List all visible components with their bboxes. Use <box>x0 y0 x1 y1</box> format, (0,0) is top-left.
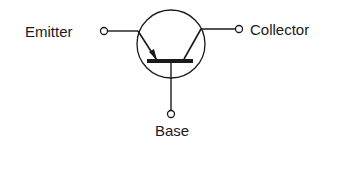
collector-label: Collector <box>250 21 309 38</box>
collector-lead-diagonal <box>184 29 201 59</box>
base-terminal-icon <box>168 111 175 118</box>
emitter-label: Emitter <box>25 23 73 40</box>
transistor-diagram: Emitter Collector Base <box>0 0 357 170</box>
collector-terminal-icon <box>236 26 243 33</box>
base-label: Base <box>155 122 189 139</box>
base-bar <box>147 59 193 63</box>
emitter-terminal-icon <box>101 28 108 35</box>
